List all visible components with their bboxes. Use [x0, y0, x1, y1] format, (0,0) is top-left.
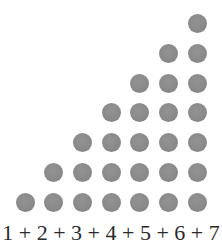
dot-col-7-row-2: [188, 163, 207, 182]
dot-col-7-row-3: [188, 133, 207, 152]
dot-col-1-row-1: [16, 193, 35, 212]
dot-col-7-row-1: [188, 193, 207, 212]
dot-col-3-row-3: [73, 133, 92, 152]
dot-col-6-row-4: [159, 103, 178, 122]
dot-col-7-row-4: [188, 103, 207, 122]
dot-col-6-row-2: [159, 163, 178, 182]
dot-col-5-row-3: [130, 133, 149, 152]
dot-col-6-row-1: [159, 193, 178, 212]
dot-col-4-row-3: [102, 133, 121, 152]
dot-col-3-row-1: [73, 193, 92, 212]
dot-col-7-row-6: [188, 44, 207, 63]
dot-col-4-row-4: [102, 103, 121, 122]
dot-col-5-row-4: [130, 103, 149, 122]
dot-staircase-diagram: [0, 0, 222, 247]
sum-caption: 1 + 2 + 3 + 4 + 5 + 6 + 7: [0, 221, 222, 245]
dot-col-5-row-1: [130, 193, 149, 212]
dot-col-6-row-5: [159, 74, 178, 93]
dot-col-5-row-2: [130, 163, 149, 182]
dot-col-4-row-2: [102, 163, 121, 182]
dot-col-6-row-6: [159, 44, 178, 63]
dot-col-2-row-1: [44, 193, 63, 212]
dot-col-7-row-7: [188, 14, 207, 33]
dot-col-3-row-2: [73, 163, 92, 182]
dot-col-4-row-1: [102, 193, 121, 212]
dot-col-2-row-2: [44, 163, 63, 182]
dot-col-6-row-3: [159, 133, 178, 152]
dot-col-7-row-5: [188, 74, 207, 93]
dot-col-5-row-5: [130, 74, 149, 93]
